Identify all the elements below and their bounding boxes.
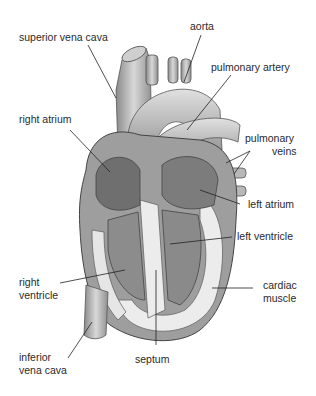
leader-superior-vena-cava (88, 45, 116, 98)
leader-pulmonary-artery (187, 75, 231, 130)
leader-right-ventricle (60, 270, 125, 283)
label-septum: septum (135, 353, 169, 366)
label-cardiac-muscle-line2: muscle (263, 292, 296, 305)
label-pulmonary-veins-line2: veins (272, 145, 297, 158)
label-left-ventricle: left ventricle (237, 230, 293, 243)
label-inferior-vena-cava-line1: inferior (19, 351, 51, 364)
label-right-atrium: right atrium (19, 113, 72, 126)
label-inferior-vena-cava-line2: vena cava (19, 364, 67, 377)
label-left-atrium: left atrium (248, 198, 294, 211)
leader-left-atrium (200, 190, 240, 204)
leader-inferior-vena-cava (68, 322, 92, 358)
label-pulmonary-veins-line1: pulmonary (245, 132, 294, 145)
leader-left-ventricle (170, 237, 232, 244)
label-right-ventricle-line2: ventricle (19, 289, 58, 302)
leader-aorta (184, 35, 201, 82)
label-aorta: aorta (190, 20, 214, 33)
label-cardiac-muscle-line1: cardiac (263, 279, 297, 292)
leader-pulmonary-veins-a (226, 151, 250, 163)
leader-pulmonary-veins-b (234, 151, 250, 174)
leader-right-atrium (70, 130, 110, 172)
label-right-ventricle-line1: right (19, 276, 39, 289)
label-pulmonary-artery: pulmonary artery (211, 61, 290, 74)
label-superior-vena-cava: superior vena cava (19, 31, 108, 44)
